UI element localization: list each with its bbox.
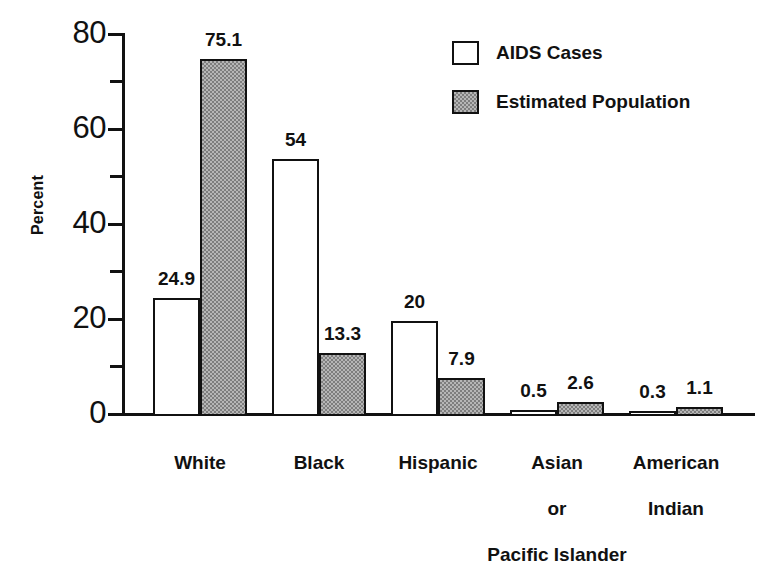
bar-white-estimated-population xyxy=(200,59,247,416)
bar-black-estimated-population xyxy=(319,353,366,416)
bar-value-american-indian-estimated-population: 1.1 xyxy=(664,378,735,397)
x-axis-label-black: Black xyxy=(259,428,379,474)
y-tick-50-minor xyxy=(110,175,123,178)
bar-value-asian-pacific-islander-estimated-population: 2.6 xyxy=(545,373,616,392)
y-tick-0 xyxy=(108,413,123,416)
y-tick-label-0: 0 xyxy=(52,397,106,428)
x-axis-label-american-indian-line1: American xyxy=(616,451,736,474)
bar-value-white-estimated-population: 75.1 xyxy=(188,30,259,49)
y-tick-70-minor xyxy=(110,80,123,83)
y-tick-40 xyxy=(108,223,123,226)
y-tick-20 xyxy=(108,318,123,321)
bar-value-black-aids-cases: 54 xyxy=(260,130,331,149)
legend-swatch-aids-cases xyxy=(452,41,479,65)
bar-asian-pacific-islander-aids-cases xyxy=(510,410,557,416)
x-axis-label-black-line1: Black xyxy=(294,452,345,473)
bar-value-black-estimated-population: 13.3 xyxy=(307,324,378,343)
y-tick-label-60: 60 xyxy=(52,112,106,143)
x-axis-label-asian-line3: Pacific Islander xyxy=(447,543,667,565)
bar-american-indian-aids-cases xyxy=(629,411,676,416)
x-axis-label-asian-line2: or xyxy=(497,497,617,520)
y-tick-10-minor xyxy=(110,365,123,368)
x-axis-label-asian-line1: Asian xyxy=(497,451,617,474)
bar-value-hispanic-estimated-population: 7.9 xyxy=(426,349,497,368)
y-tick-30-minor xyxy=(110,270,123,273)
x-axis-label-white-line1: White xyxy=(174,452,226,473)
x-axis-label-asian-pacific-islander: Asian or Pacific Islander xyxy=(497,428,617,565)
legend-swatch-estimated-population xyxy=(452,90,479,114)
bar-hispanic-aids-cases xyxy=(391,321,438,416)
bar-black-aids-cases xyxy=(272,159,319,416)
y-axis-title: Percent xyxy=(29,145,47,265)
x-axis-label-hispanic: Hispanic xyxy=(378,428,498,474)
x-axis-label-hispanic-line1: Hispanic xyxy=(398,452,477,473)
legend-label-estimated-population: Estimated Population xyxy=(496,90,690,114)
bar-value-hispanic-aids-cases: 20 xyxy=(379,292,450,311)
y-tick-60 xyxy=(108,128,123,131)
y-tick-label-80: 80 xyxy=(52,17,106,48)
y-tick-label-20: 20 xyxy=(52,302,106,333)
bar-white-aids-cases xyxy=(153,298,200,416)
x-axis-label-american-indian-line2: Indian xyxy=(616,497,736,520)
bar-hispanic-estimated-population xyxy=(438,378,485,416)
legend-label-aids-cases: AIDS Cases xyxy=(496,41,603,65)
bar-asian-pacific-islander-estimated-population xyxy=(557,402,604,416)
x-axis-label-white: White xyxy=(140,428,260,474)
y-tick-label-40: 40 xyxy=(52,207,106,238)
x-axis-label-american-indian: American Indian xyxy=(616,428,736,543)
y-tick-80 xyxy=(108,33,123,36)
bar-american-indian-estimated-population xyxy=(676,407,723,416)
